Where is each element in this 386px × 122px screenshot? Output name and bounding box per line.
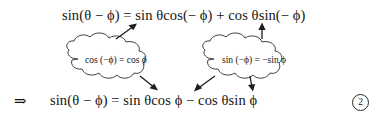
equation-number-badge: 2 <box>352 94 369 111</box>
arrow-head-left-up <box>129 24 138 31</box>
arrow-left-bubble-to-top-equation <box>116 26 134 39</box>
arrow-head-middle-down <box>194 83 202 91</box>
implies-symbol: ⇒ <box>14 92 27 110</box>
callout-text-left: cos (−ϕ) = cos ϕ <box>85 55 147 65</box>
top-equation: sin(θ − ϕ) = sin θcos(− ϕ) + cos θsin(− … <box>62 7 305 24</box>
arrow-left-bubble-to-bottom-equation <box>140 76 155 88</box>
arrow-right-bubble-to-sin-phi <box>250 76 252 88</box>
arrow-head-left-down <box>150 83 159 90</box>
math-derivation-figure: sin(θ − ϕ) = sin θcos(− ϕ) + cos θsin(− … <box>0 0 386 122</box>
arrow-right-bubble-to-minus-sign <box>197 76 215 89</box>
bottom-equation: sin(θ − ϕ) = sin θcos ϕ − cos θsin ϕ <box>50 92 257 109</box>
arrow-head-right-down <box>248 84 255 92</box>
callout-text-right: sin (−ϕ) = −sin ϕ <box>222 55 286 65</box>
